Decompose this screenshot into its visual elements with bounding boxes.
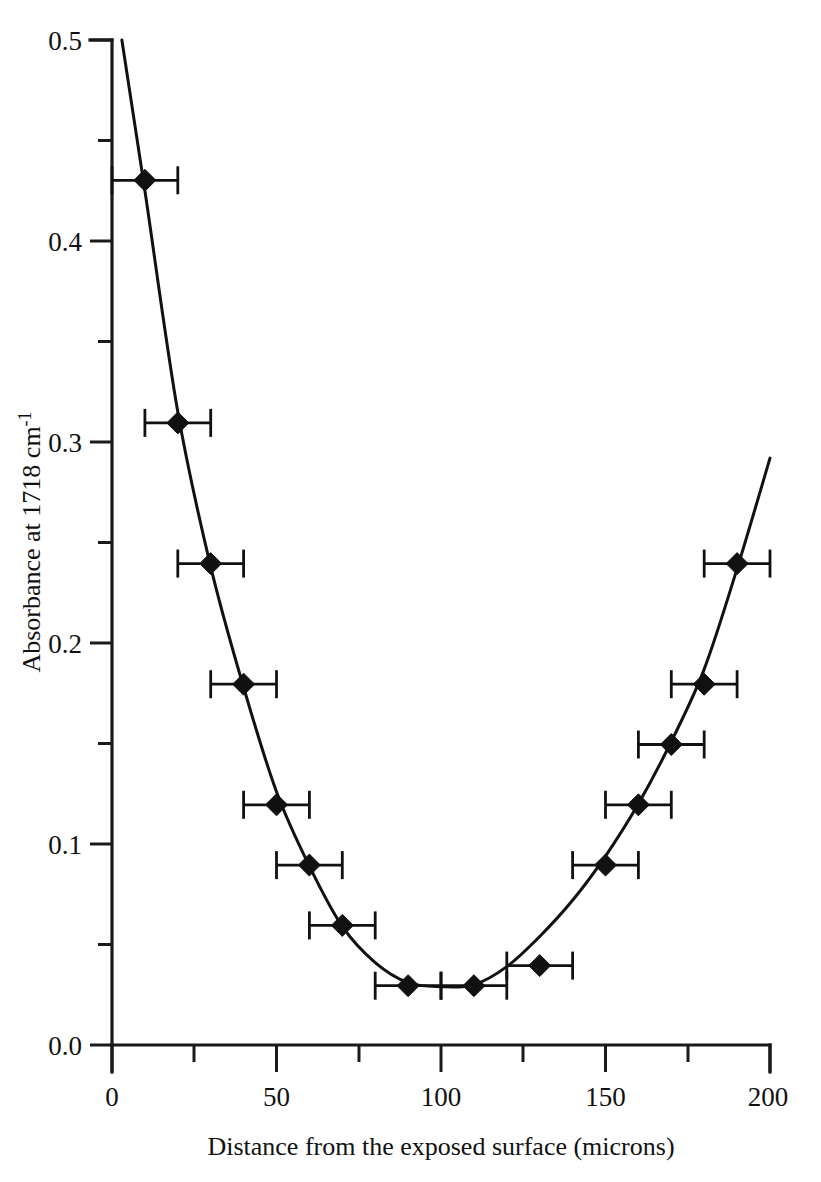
y-tick-label-0.0: 0.0 [48, 1031, 82, 1061]
y-tick-label-0.3: 0.3 [48, 428, 82, 458]
data-point-50[interactable] [244, 791, 310, 819]
data-point-130[interactable] [507, 952, 573, 980]
marker-diamond-190 [726, 553, 748, 575]
axes-spines [90, 40, 770, 1072]
y-tick-label-0.5: 0.5 [48, 26, 82, 56]
data-point-70[interactable] [309, 911, 375, 939]
data-point-190[interactable] [704, 550, 770, 578]
marker-diamond-10 [134, 169, 156, 191]
y-tick-label-0.1: 0.1 [48, 830, 82, 860]
data-point-40[interactable] [211, 670, 277, 698]
data-point-10[interactable] [112, 166, 178, 194]
marker-diamond-70 [331, 914, 353, 936]
marker-diamond-160 [627, 794, 649, 816]
fitted-curve [122, 40, 770, 987]
data-point-150[interactable] [573, 851, 639, 879]
data-point-60[interactable] [277, 851, 343, 879]
data-point-20[interactable] [145, 409, 211, 437]
marker-diamond-130 [529, 955, 551, 977]
marker-diamond-20 [167, 412, 189, 434]
y-axis-title-superscript: -1 [15, 411, 35, 426]
data-point-110[interactable] [441, 972, 507, 1000]
data-point-160[interactable] [606, 791, 672, 819]
x-tick-label-50: 50 [263, 1082, 290, 1112]
y-tick-label-0.4: 0.4 [48, 227, 82, 257]
data-point-30[interactable] [178, 550, 244, 578]
chart-container: 0.5 0.4 0.3 0.2 0.1 0.0 0 50 100 150 200… [0, 0, 821, 1182]
data-point-170[interactable] [638, 731, 704, 759]
x-axis-title: Distance from the exposed surface (micro… [207, 1132, 674, 1161]
x-tick-label-150: 150 [585, 1082, 626, 1112]
y-axis-title-main: Absorbance at 1718 cm [17, 426, 46, 672]
x-tick-label-100: 100 [421, 1082, 462, 1112]
x-axis-tick-labels: 0 50 100 150 200 [105, 1082, 788, 1112]
marker-diamond-30 [200, 553, 222, 575]
y-axis-title-group: Absorbance at 1718 cm-1 [15, 411, 46, 672]
y-axis-minor-ticks [98, 141, 112, 945]
data-point-180[interactable] [671, 670, 737, 698]
y-axis-title: Absorbance at 1718 cm-1 [15, 411, 46, 672]
x-axis-major-ticks [112, 1045, 770, 1072]
marker-diamond-110 [463, 975, 485, 997]
marker-diamond-180 [693, 673, 715, 695]
absorbance-vs-distance-chart: 0.5 0.4 0.3 0.2 0.1 0.0 0 50 100 150 200… [0, 0, 821, 1182]
marker-diamond-170 [660, 734, 682, 756]
y-tick-label-0.2: 0.2 [48, 629, 82, 659]
marker-diamond-60 [298, 854, 320, 876]
x-tick-label-0: 0 [105, 1082, 119, 1112]
data-point-90[interactable] [375, 972, 441, 1000]
data-points-group [112, 166, 770, 999]
marker-diamond-150 [595, 854, 617, 876]
x-tick-label-200: 200 [748, 1082, 789, 1112]
y-axis-tick-labels: 0.5 0.4 0.3 0.2 0.1 0.0 [48, 26, 82, 1061]
marker-diamond-40 [233, 673, 255, 695]
